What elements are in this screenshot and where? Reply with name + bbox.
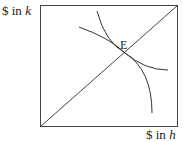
y-axis-label: $ in k xyxy=(2,3,31,19)
x-axis-label: $ in h xyxy=(146,127,176,141)
equilibrium-point-label: E xyxy=(120,38,127,53)
steep-curve xyxy=(97,11,152,113)
edgeworth-box-diagram xyxy=(0,0,183,141)
diagonal-line xyxy=(41,6,178,127)
